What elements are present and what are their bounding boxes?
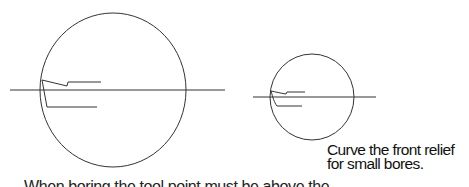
cutoff-text: When boring the tool point must be above… [24, 177, 329, 187]
caption: Curve the front relief for small bores. [327, 143, 454, 171]
small-bore-tool-upper-edge [271, 91, 305, 94]
large-bore-tool-upper-edge [42, 80, 101, 86]
caption-line-2: for small bores. [327, 157, 454, 171]
large-bore-tool-lower-edge [42, 80, 97, 107]
